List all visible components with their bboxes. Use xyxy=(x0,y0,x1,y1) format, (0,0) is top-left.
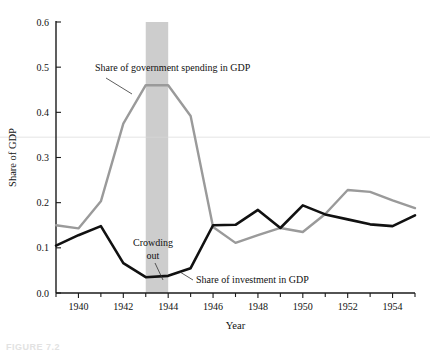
figure-caption: FIGURE 7.2 xyxy=(6,342,60,352)
y-tick-label: 0.1 xyxy=(37,242,50,253)
gov-spending-label-leader xyxy=(106,78,132,94)
y-axis-title: Share of GDP xyxy=(7,128,18,187)
x-tick-label: 1940 xyxy=(68,301,88,312)
series-line-government-spending xyxy=(56,85,415,243)
figure-container: Share of government spending in GDPCrowd… xyxy=(0,0,430,352)
x-tick-label: 1954 xyxy=(383,301,403,312)
crowding-out-label-line1: Crowding xyxy=(133,237,173,248)
y-tick-label: 0.4 xyxy=(37,107,50,118)
y-tick-label: 0.5 xyxy=(37,62,50,73)
investment-label: Share of investment in GDP xyxy=(196,274,309,285)
x-tick-label: 1948 xyxy=(248,301,268,312)
y-tick-label: 0.2 xyxy=(37,197,50,208)
x-axis-title: Year xyxy=(226,320,246,331)
y-tick-label: 0.0 xyxy=(37,288,50,299)
investment-label-leader xyxy=(180,272,193,280)
x-tick-label: 1942 xyxy=(113,301,133,312)
x-tick-label: 1952 xyxy=(338,301,358,312)
x-tick-label: 1944 xyxy=(158,301,178,312)
series-line-investment xyxy=(56,205,415,277)
series-layer xyxy=(56,85,415,277)
y-tick-label: 0.6 xyxy=(37,17,50,28)
line-chart: Share of government spending in GDPCrowd… xyxy=(0,0,430,340)
crowding-out-label-line2: out xyxy=(147,250,160,261)
x-tick-label: 1946 xyxy=(203,301,223,312)
x-tick-label: 1950 xyxy=(293,301,313,312)
y-tick-label: 0.3 xyxy=(37,152,50,163)
gov-spending-label: Share of government spending in GDP xyxy=(95,62,251,73)
